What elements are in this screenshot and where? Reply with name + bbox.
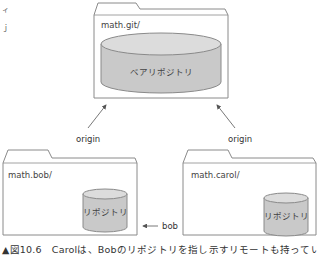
bob-remote-arrow: bob [143,221,178,231]
figure-caption: ▲図10.6 Carolは、Bobのリポジトリを指し示すリモートも持っている [2,242,317,256]
bob-remote-label: bob [162,221,178,231]
bob-origin-label: origin [76,134,100,144]
diagram-canvas: math.git/ ベアリポジトリ origin origin math.bob… [0,0,317,257]
bob-origin-arrow: origin [76,105,106,144]
bob-repository-label: リポジトリ [83,207,128,217]
carol-repository-label: リポジトリ [264,211,309,221]
edge-mark-top: ィ [2,4,9,14]
carol-origin-label: origin [228,134,252,144]
bob-repository-cylinder: リポジトリ [83,189,128,232]
bob-folder-label: math.bob/ [8,170,52,180]
bare-repository-cylinder: ベアリポジトリ [101,33,221,93]
shared-folder-label: math.git/ [101,20,140,30]
carol-origin-arrow: origin [217,105,252,144]
edge-mark-bottom: ｊ [2,22,9,32]
bare-repository-label: ベアリポジトリ [130,67,193,77]
carol-repository-cylinder: リポジトリ [264,193,309,236]
carol-folder: math.carol/ リポジトリ [183,150,316,236]
shared-folder: math.git/ ベアリポジトリ [94,3,228,98]
bob-folder: math.bob/ リポジトリ [3,150,137,235]
carol-folder-label: math.carol/ [191,170,240,180]
